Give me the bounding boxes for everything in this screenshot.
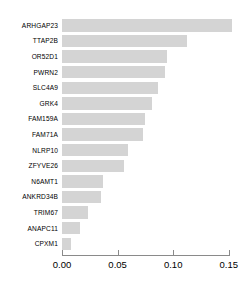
x-axis-tick-label: 0.10 — [164, 260, 183, 270]
bar-row: ANKRD34B — [0, 190, 249, 206]
x-axis-tick-label: 0.15 — [220, 260, 239, 270]
x-axis-tick — [118, 250, 119, 256]
bar-fill — [62, 113, 145, 125]
bar — [62, 238, 71, 250]
bar-chart: ARHGAP23TTAP2BOR52D1PWRN2SLC4A9GRK4FAM15… — [0, 0, 249, 295]
bar-fill — [62, 238, 71, 250]
bar-category-label: CPXM1 — [35, 241, 58, 248]
bar — [62, 113, 145, 125]
bar — [62, 191, 101, 203]
bar — [62, 128, 143, 140]
bar-fill — [62, 66, 165, 78]
bar-category-label: ANKRD34B — [22, 194, 58, 201]
bar-fill — [62, 82, 158, 94]
bar-fill — [62, 50, 167, 62]
bar-category-label: GRK4 — [40, 101, 58, 108]
bar — [62, 82, 158, 94]
bar-fill — [62, 175, 103, 187]
bar-category-label: ARHGAP23 — [22, 23, 58, 30]
bar-row: ZFYVE26 — [0, 158, 249, 174]
bar-row: TTAP2B — [0, 34, 249, 50]
bar-fill — [62, 191, 101, 203]
bar-category-label: TTAP2B — [33, 38, 58, 45]
bar-category-label: SLC4A9 — [33, 85, 58, 92]
bar — [62, 175, 103, 187]
bar-row: TRIM67 — [0, 205, 249, 221]
x-axis-line — [62, 255, 229, 256]
bar-row: GRK4 — [0, 96, 249, 112]
bar-category-label: PWRN2 — [34, 69, 58, 76]
bar-category-label: N6AMT1 — [31, 179, 58, 186]
bar-row: PWRN2 — [0, 65, 249, 81]
bar-fill — [62, 128, 143, 140]
bar-category-label: OR52D1 — [32, 54, 58, 61]
bar-row: FAM159A — [0, 112, 249, 128]
bar — [62, 19, 232, 31]
bar — [62, 66, 165, 78]
bar-fill — [62, 19, 232, 31]
bar-fill — [62, 144, 128, 156]
bar-fill — [62, 160, 124, 172]
bar-category-label: TRIM67 — [34, 210, 58, 217]
bar-row: ARHGAP23 — [0, 18, 249, 34]
x-axis-tick-label: 0.00 — [53, 260, 72, 270]
bar — [62, 50, 167, 62]
bar-row: NLRP10 — [0, 143, 249, 159]
bar — [62, 160, 124, 172]
bar — [62, 222, 80, 234]
bar-fill — [62, 97, 152, 109]
bar-row: OR52D1 — [0, 49, 249, 65]
x-axis-tick-label: 0.05 — [108, 260, 127, 270]
plot-area: ARHGAP23TTAP2BOR52D1PWRN2SLC4A9GRK4FAM15… — [0, 0, 249, 250]
bar-category-label: FAM159A — [28, 116, 58, 123]
x-axis-tick — [62, 250, 63, 256]
bar-fill — [62, 35, 187, 47]
bar-category-label: ZFYVE26 — [29, 163, 58, 170]
bar-row: FAM71A — [0, 127, 249, 143]
x-axis-tick — [229, 250, 230, 256]
bar — [62, 206, 88, 218]
bar-row: ANAPC11 — [0, 221, 249, 237]
bar-row: SLC4A9 — [0, 80, 249, 96]
bar-fill — [62, 206, 88, 218]
bar-category-label: FAM71A — [32, 132, 58, 139]
x-axis-tick — [173, 250, 174, 256]
bar-category-label: ANAPC11 — [28, 225, 58, 232]
bar-category-label: NLRP10 — [32, 147, 58, 154]
bar — [62, 97, 152, 109]
bar — [62, 144, 128, 156]
bar-fill — [62, 222, 80, 234]
x-axis: 0.000.050.100.15 — [0, 250, 249, 295]
bar-row: N6AMT1 — [0, 174, 249, 190]
bar — [62, 35, 187, 47]
